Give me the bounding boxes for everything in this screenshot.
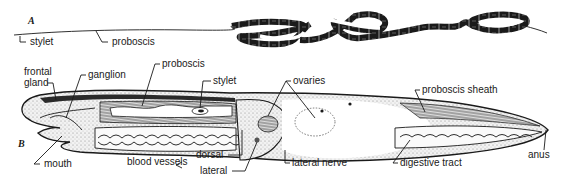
label-blood-vessels: blood vessels xyxy=(127,156,188,167)
label-lateral-nerve: lateral nerve xyxy=(292,157,347,168)
label-proboscis-a: proboscis xyxy=(112,36,155,47)
label-dorsal: dorsal xyxy=(196,149,223,160)
figure-b: B frontal gland xyxy=(17,58,550,176)
label-gland: gland xyxy=(24,77,48,88)
figure-b-letter: B xyxy=(17,138,25,149)
intestine-front xyxy=(95,127,236,152)
label-frontal: frontal xyxy=(24,66,52,77)
proboscis-lumen xyxy=(110,105,232,118)
label-stylet-b: stylet xyxy=(213,75,237,86)
label-proboscis-b: proboscis xyxy=(162,58,205,69)
nemertean-anatomy-diagram: A stylet proboscis B xyxy=(0,0,565,181)
label-digestive-tract: digestive tract xyxy=(400,157,462,168)
worm-body-coiled xyxy=(232,14,547,44)
label-stylet-a: stylet xyxy=(30,36,54,47)
label-ganglion: ganglion xyxy=(88,69,126,80)
figure-a-letter: A xyxy=(27,15,35,26)
ovary-section xyxy=(258,116,278,132)
leader-proboscis-a xyxy=(96,31,108,42)
label-ovaries: ovaries xyxy=(293,75,325,86)
leader-stylet-a xyxy=(20,36,26,42)
label-proboscis-sheath: proboscis sheath xyxy=(422,84,498,95)
label-lateral: lateral xyxy=(200,165,227,176)
figure-a: A stylet proboscis xyxy=(14,14,547,47)
label-anus: anus xyxy=(528,149,550,160)
label-mouth: mouth xyxy=(44,158,72,169)
lateral-nerve-dot xyxy=(255,138,260,143)
proboscis-thread xyxy=(14,26,235,35)
